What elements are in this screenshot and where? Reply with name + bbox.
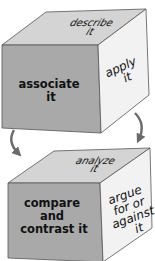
front-label-line-1: associate bbox=[18, 77, 79, 91]
top-cube: describe it associate it apply it bbox=[2, 9, 149, 133]
front-label-line-2: and bbox=[40, 209, 64, 223]
rotate-right-arrow-icon bbox=[135, 113, 142, 139]
front-label-line-1: compare bbox=[24, 196, 80, 210]
front-label-line-2: it bbox=[46, 90, 56, 104]
bottom-cube: analyze it compare and contrast it argue… bbox=[8, 148, 155, 261]
rotate-left-arrow-icon bbox=[11, 130, 18, 153]
cube-diagram: describe it associate it apply it analyz… bbox=[0, 0, 155, 261]
front-label-line-3: contrast it bbox=[20, 222, 88, 236]
